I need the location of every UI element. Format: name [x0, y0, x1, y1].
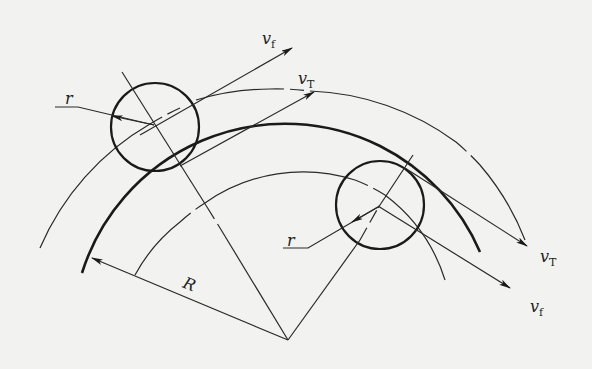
- r-arrow-left: [112, 116, 154, 125]
- r-label-left: r: [65, 89, 74, 108]
- R-dimension-line: [92, 258, 288, 340]
- vf-label-top: vf: [262, 29, 276, 51]
- vT-label-top: vT: [298, 69, 315, 91]
- outer-path-arc-upper: [196, 89, 270, 100]
- outer-path-arc-dashed-top: [270, 89, 310, 91]
- vf-label-right: vf: [530, 297, 544, 319]
- vT-vector-top: [180, 92, 314, 166]
- vf-vector-top: [140, 48, 292, 135]
- inner-path-arc-dashed-left: [180, 203, 205, 222]
- arc-milling-diagram: vf vT r r R vT vf: [0, 0, 592, 369]
- inner-path-arc-end: [385, 195, 445, 280]
- outer-path-arc-dashed-right: [456, 142, 480, 165]
- r-label-right: r: [287, 231, 296, 250]
- inner-path-arc-dashed-right: [355, 180, 385, 195]
- radial-line-left-lower: [220, 228, 288, 340]
- inner-path-arc-left: [135, 222, 180, 275]
- radial-line-right: [288, 240, 360, 340]
- radial-line-left-dashed: [207, 207, 220, 228]
- inner-path-arc-mid: [205, 172, 355, 203]
- workpiece-arc: [82, 124, 480, 273]
- outer-path-arc-right: [310, 91, 456, 142]
- vT-label-right: vT: [540, 247, 557, 269]
- r-leader-right: [283, 207, 378, 248]
- R-label: R: [179, 273, 198, 296]
- outer-path-arc-dashed: [150, 108, 180, 124]
- outer-path-arc-end: [480, 165, 525, 240]
